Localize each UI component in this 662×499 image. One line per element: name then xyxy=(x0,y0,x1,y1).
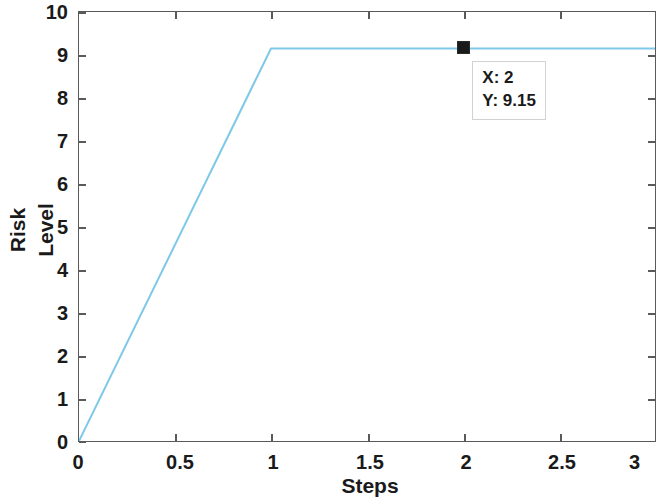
datatip-square-marker[interactable] xyxy=(457,41,470,54)
y-tick-label-4: 4 xyxy=(30,260,68,280)
x-axis-title: Steps xyxy=(280,474,460,498)
plot-area xyxy=(78,11,656,442)
y-tick-label-5: 5 xyxy=(30,217,68,237)
series-risk-level xyxy=(79,48,655,441)
figure-canvas: Risk Level 10 9 8 7 6 5 4 3 2 1 0 0 0.5 … xyxy=(0,0,662,499)
data-line-svg xyxy=(79,12,655,441)
x-tick-label-2: 2 xyxy=(436,452,496,472)
y-tick-label-1: 1 xyxy=(30,389,68,409)
datatip-box[interactable]: X: 2 Y: 9.15 xyxy=(472,61,546,120)
x-tick-label-0: 0 xyxy=(48,452,108,472)
x-tick-label-0-5: 0.5 xyxy=(150,452,210,472)
x-tick-label-1: 1 xyxy=(243,452,303,472)
x-tick-label-3: 3 xyxy=(629,452,662,472)
y-tick-label-7: 7 xyxy=(30,131,68,151)
datatip-y-value: Y: 9.15 xyxy=(482,90,536,113)
y-tick-label-6: 6 xyxy=(30,174,68,194)
y-axis-title-line-1: Risk xyxy=(4,150,32,310)
x-tick-label-2-5: 2.5 xyxy=(532,452,592,472)
datatip-x-value: X: 2 xyxy=(482,67,536,90)
y-tick-label-2: 2 xyxy=(30,346,68,366)
y-tick-label-0: 0 xyxy=(30,432,68,452)
y-tick-label-3: 3 xyxy=(30,303,68,323)
y-tick-label-9: 9 xyxy=(30,45,68,65)
tick-y-0 xyxy=(79,441,86,443)
x-tick-label-1-5: 1.5 xyxy=(340,452,400,472)
y-tick-label-8: 8 xyxy=(30,88,68,108)
y-tick-label-10: 10 xyxy=(30,2,68,22)
